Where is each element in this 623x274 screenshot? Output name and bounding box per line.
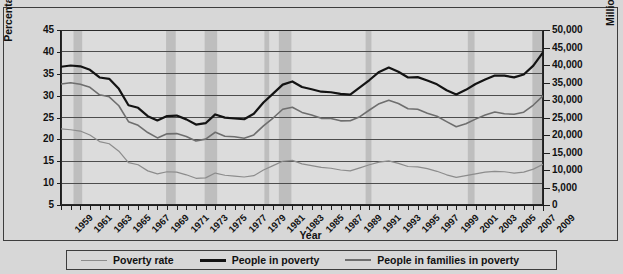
- y-axis-left-spine: [60, 30, 61, 205]
- chart-svg: [61, 30, 543, 205]
- y-axis-right-tick-label: 25,000: [552, 113, 596, 123]
- y-axis-left-tick-label: 15: [28, 156, 54, 166]
- y-axis-right-spine: [543, 30, 544, 211]
- y-axis-right-tick-label: 45,000: [552, 43, 596, 53]
- y-axis-right-tick-label: 50,000: [552, 25, 596, 35]
- legend-item[interactable]: People in poverty: [200, 254, 320, 266]
- y-axis-right-tick-mark: [544, 188, 550, 189]
- legend-item[interactable]: Poverty rate: [81, 254, 174, 266]
- y-axis-right-tick-mark: [544, 30, 550, 31]
- y-axis-left-tick-label: 20: [28, 134, 54, 144]
- cropped-title-remnant: [0, 0, 623, 6]
- y-axis-right-tick-mark: [544, 118, 550, 119]
- chart-legend: Poverty ratePeople in povertyPeople in f…: [66, 250, 557, 270]
- y-axis-right-tick-mark: [544, 170, 550, 171]
- y-axis-right-tick-mark: [544, 153, 550, 154]
- y-axis-left-tick-label: 25: [28, 113, 54, 123]
- y-axis-right-title: Millions in poverty: [604, 0, 616, 40]
- x-axis-spine: [57, 205, 549, 206]
- y-axis-left-tick-label: 10: [28, 178, 54, 188]
- legend-line-swatch: [345, 259, 371, 261]
- legend-item-label: People in poverty: [232, 254, 320, 266]
- legend-item-label: People in families in poverty: [377, 254, 519, 266]
- legend-item[interactable]: People in families in poverty: [345, 254, 519, 266]
- plot-area: [61, 30, 543, 205]
- chart-screenshot: Percentage in poverty 45403530252015105 …: [0, 0, 623, 274]
- y-axis-left-tick-label: 40: [28, 47, 54, 57]
- y-axis-right-tick-label: 40,000: [552, 60, 596, 70]
- y-axis-left-tick-label: 45: [28, 25, 54, 35]
- y-axis-right-tick-mark: [544, 135, 550, 136]
- y-axis-right-tick-label: 20,000: [552, 130, 596, 140]
- legend-line-swatch: [81, 260, 107, 261]
- y-axis-right-tick-label: 15,000: [552, 148, 596, 158]
- y-axis-right-tick-mark: [544, 48, 550, 49]
- y-axis-right-tick-mark: [544, 100, 550, 101]
- x-axis-title: Year: [4, 229, 617, 241]
- y-axis-right-tick-label: 35,000: [552, 78, 596, 88]
- y-axis-left-tick-label: 30: [28, 91, 54, 101]
- y-axis-left-tick-label: 5: [28, 200, 54, 210]
- legend-line-swatch: [200, 259, 226, 262]
- y-axis-left-title: Percentage in poverty: [2, 0, 14, 52]
- y-axis-right-tick-label: 30,000: [552, 95, 596, 105]
- y-axis-left-tick-label: 35: [28, 69, 54, 79]
- chart-frame: Percentage in poverty 45403530252015105 …: [3, 7, 618, 241]
- y-axis-right-tick-mark: [544, 65, 550, 66]
- y-axis-right-tick-label: 10,000: [552, 165, 596, 175]
- y-axis-right-tick-label: 5,000: [552, 183, 596, 193]
- legend-item-label: Poverty rate: [113, 254, 174, 266]
- y-axis-right-tick-mark: [544, 83, 550, 84]
- y-axis-right-tick-label: 0: [552, 200, 596, 210]
